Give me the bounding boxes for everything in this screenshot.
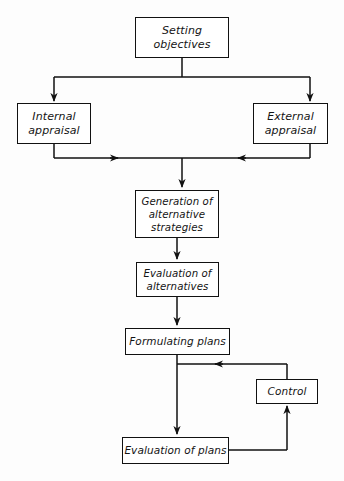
node-control[interactable]: Control bbox=[256, 379, 318, 404]
node-label-line: External bbox=[267, 110, 314, 124]
node-label-line: Setting bbox=[162, 24, 202, 38]
node-internal-appraisal[interactable]: Internal appraisal bbox=[17, 103, 91, 144]
node-setting-objectives[interactable]: Setting objectives bbox=[135, 17, 229, 58]
node-label-line: Generation of bbox=[141, 195, 212, 208]
node-evaluation-of-plans[interactable]: Evaluation of plans bbox=[122, 437, 229, 464]
node-label-line: alternative bbox=[149, 208, 205, 221]
node-label-line: objectives bbox=[154, 38, 211, 52]
node-label-line: alternatives bbox=[147, 280, 209, 293]
node-label-line: strategies bbox=[151, 221, 203, 234]
node-evaluation-of-alternatives[interactable]: Evaluation of alternatives bbox=[136, 262, 219, 297]
node-label-line: Evaluation of bbox=[143, 267, 211, 280]
node-label-line: Control bbox=[268, 385, 307, 398]
node-formulating-plans[interactable]: Formulating plans bbox=[125, 328, 230, 355]
node-label-line: Formulating plans bbox=[129, 335, 226, 348]
node-label-line: Evaluation of plans bbox=[124, 444, 226, 457]
flowchart-connectors bbox=[0, 0, 344, 481]
flowchart-diagram: Setting objectives Internal appraisal Ex… bbox=[0, 0, 344, 481]
node-generation-of-alternative-strategies[interactable]: Generation of alternative strategies bbox=[135, 190, 219, 238]
node-external-appraisal[interactable]: External appraisal bbox=[253, 103, 328, 144]
node-label-line: Internal bbox=[32, 110, 75, 124]
node-label-line: appraisal bbox=[28, 124, 79, 138]
node-label-line: appraisal bbox=[265, 124, 316, 138]
